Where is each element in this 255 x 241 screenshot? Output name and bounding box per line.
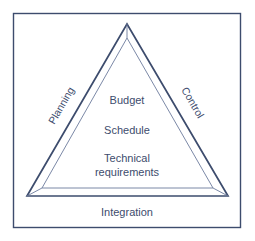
label-requirements: requirements	[95, 166, 160, 178]
triangle-diagram: Budget Schedule Technical requirements P…	[0, 0, 255, 241]
label-schedule: Schedule	[104, 124, 150, 136]
label-technical: Technical	[104, 152, 150, 164]
diagram-canvas: Budget Schedule Technical requirements P…	[0, 0, 255, 241]
label-integration: Integration	[101, 206, 153, 218]
label-budget: Budget	[110, 94, 145, 106]
